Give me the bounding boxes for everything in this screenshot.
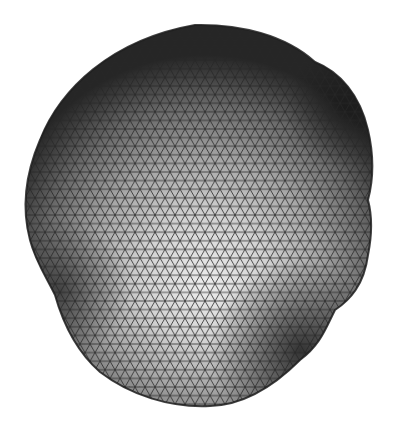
mesh-canvas: [0, 0, 397, 427]
triangle-mesh: [0, 0, 397, 427]
mesh-figure: triangulated mesh of a deformed sphere: [0, 0, 397, 427]
blob-body: [0, 0, 397, 427]
